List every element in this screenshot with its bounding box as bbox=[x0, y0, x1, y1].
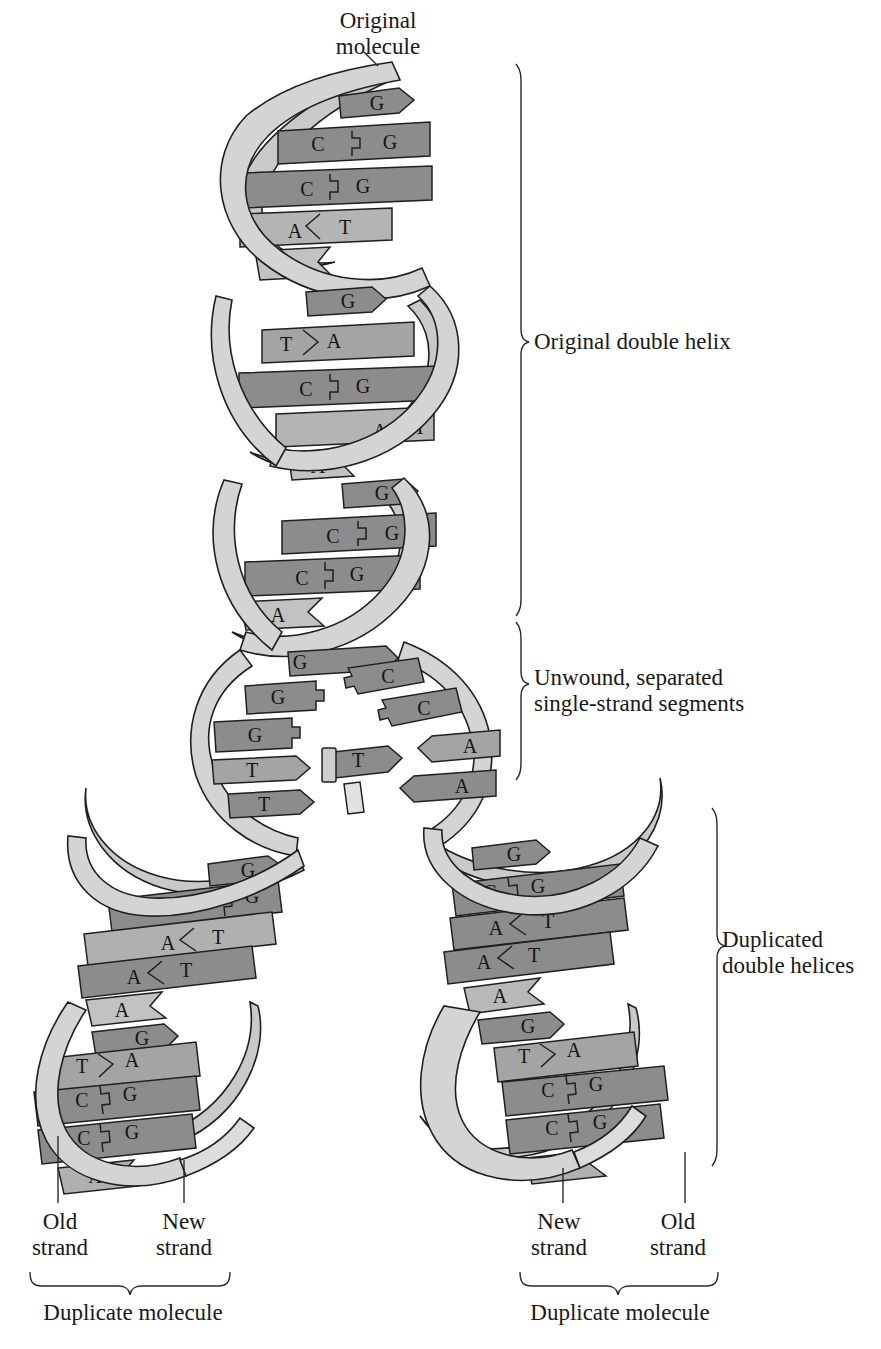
free-nucleotide-gap-cap bbox=[344, 782, 364, 814]
base-label: A bbox=[567, 1039, 582, 1061]
base-label: C bbox=[77, 1127, 90, 1149]
base-label: C bbox=[541, 1079, 554, 1101]
base-label: T bbox=[280, 333, 292, 355]
base-label: A bbox=[271, 604, 286, 626]
base-label: A bbox=[115, 999, 130, 1021]
dna-replication-figure: G C G C G A T A bbox=[0, 0, 881, 1349]
original-helix-group: G C G C G A T A bbox=[211, 62, 458, 656]
bracket-unwound bbox=[516, 622, 529, 780]
base-label: G bbox=[271, 686, 285, 708]
free-nucleotides: T bbox=[322, 746, 402, 814]
base-label: G bbox=[507, 843, 521, 865]
bracket-original-helix bbox=[516, 64, 529, 616]
label-original-molecule: Original molecule bbox=[288, 8, 468, 60]
base-label: C bbox=[545, 1117, 558, 1139]
base-label: T bbox=[528, 944, 540, 966]
fork-ribbon-left bbox=[191, 650, 298, 856]
bracket-duplicated bbox=[712, 808, 725, 1166]
base-label: T bbox=[246, 759, 258, 781]
brace-duplicate-molecule-left bbox=[30, 1272, 230, 1295]
base-label: A bbox=[493, 985, 508, 1007]
base-label: A bbox=[327, 330, 342, 352]
label-old-strand-right: Old strand bbox=[630, 1209, 726, 1261]
label-unwound-segments: Unwound, separated single-strand segment… bbox=[534, 665, 864, 717]
base-label: A bbox=[127, 966, 142, 988]
base-label: C bbox=[75, 1089, 88, 1111]
base-label: C bbox=[311, 133, 324, 155]
base-label: C bbox=[300, 178, 313, 200]
label-duplicate-molecule-left: Duplicate molecule bbox=[8, 1300, 258, 1326]
base-label: T bbox=[212, 926, 224, 948]
base-label: G bbox=[135, 1027, 149, 1049]
label-duplicate-molecule-right: Duplicate molecule bbox=[495, 1300, 745, 1326]
base-label: G bbox=[383, 131, 397, 153]
replication-fork-group: G G G T T C C A bbox=[191, 642, 500, 856]
half-rung-t-l2 bbox=[228, 790, 314, 818]
label-original-double-helix: Original double helix bbox=[534, 329, 854, 355]
half-rung-a-r2 bbox=[400, 770, 496, 802]
bottom-braces bbox=[30, 1272, 718, 1295]
base-label: G bbox=[123, 1083, 137, 1105]
brace-duplicate-molecule-right bbox=[520, 1272, 718, 1295]
daughter-helix-left-group: G C G A T A T A bbox=[34, 788, 304, 1194]
label-old-strand-left: Old strand bbox=[12, 1209, 108, 1261]
base-label: C bbox=[417, 697, 430, 719]
base-label: G bbox=[385, 522, 399, 544]
base-label: G bbox=[350, 563, 364, 585]
section-brackets bbox=[516, 64, 725, 1166]
base-label: C bbox=[295, 567, 308, 589]
base-label: T bbox=[352, 749, 364, 771]
base-label: C bbox=[381, 665, 394, 687]
base-label: A bbox=[463, 735, 478, 757]
base-label: G bbox=[375, 482, 389, 504]
base-label: T bbox=[339, 216, 351, 238]
base-label: G bbox=[370, 92, 384, 114]
base-label: A bbox=[455, 775, 470, 797]
half-rung-a-r1 bbox=[418, 730, 500, 762]
base-label: G bbox=[248, 724, 262, 746]
base-label: G bbox=[356, 375, 370, 397]
base-label: G bbox=[293, 651, 307, 673]
free-nucleotide-t-cap bbox=[322, 748, 336, 782]
base-label: C bbox=[299, 378, 312, 400]
base-label: G bbox=[531, 875, 545, 897]
base-label: G bbox=[589, 1073, 603, 1095]
base-label: T bbox=[258, 793, 270, 815]
base-label: G bbox=[521, 1015, 535, 1037]
label-new-strand-right: New strand bbox=[505, 1209, 613, 1261]
base-label: C bbox=[326, 525, 339, 547]
base-label: A bbox=[161, 932, 176, 954]
base-label: A bbox=[477, 951, 492, 973]
base-label: T bbox=[518, 1045, 530, 1067]
daughter-helix-right-group: G C G A T A T A bbox=[420, 778, 668, 1184]
base-label: G bbox=[125, 1121, 139, 1143]
base-label: T bbox=[76, 1055, 88, 1077]
half-rung-t-l1 bbox=[212, 756, 310, 784]
label-duplicated-helices: Duplicated double helices bbox=[722, 927, 881, 979]
free-nucleotide-t bbox=[333, 746, 402, 778]
base-label: A bbox=[125, 1049, 140, 1071]
base-label: A bbox=[489, 917, 504, 939]
base-label: A bbox=[288, 220, 303, 242]
label-new-strand-left: New strand bbox=[130, 1209, 238, 1261]
base-label: G bbox=[356, 175, 370, 197]
base-label: G bbox=[593, 1111, 607, 1133]
base-label: T bbox=[180, 959, 192, 981]
base-label: G bbox=[341, 290, 355, 312]
